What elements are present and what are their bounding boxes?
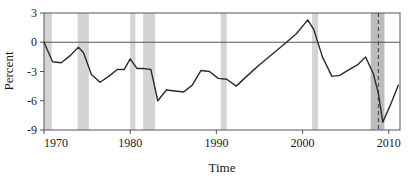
recession-band (78, 13, 89, 130)
x-tick-label: 2000 (291, 136, 315, 150)
x-axis-title-group: Time (209, 160, 236, 175)
y-tick-label: -3 (27, 65, 37, 79)
x-tick-label: 1970 (44, 136, 68, 150)
y-tick-label: 3 (31, 6, 37, 20)
recession-band (130, 13, 135, 130)
y-tick-label: 0 (31, 35, 37, 49)
y-axis-title-group: Percent (1, 51, 16, 90)
recession-band (221, 13, 227, 130)
recession-band (44, 13, 52, 130)
x-tick-label: 2010 (377, 136, 401, 150)
y-axis-ticks: 30-3-6-9 (27, 6, 44, 137)
x-axis-title: Time (209, 160, 236, 175)
x-tick-label: 1990 (204, 136, 228, 150)
recession-band (143, 13, 155, 130)
chart-figure: 30-3-6-9 19701980199020002010 Percent Ti… (0, 0, 414, 176)
line-chart: 30-3-6-9 19701980199020002010 Percent Ti… (0, 0, 414, 176)
x-tick-label: 1980 (118, 136, 142, 150)
recession-band (312, 13, 318, 130)
recession-bands-group (44, 13, 384, 130)
x-axis-ticks: 19701980199020002010 (44, 130, 401, 150)
y-tick-label: -9 (27, 123, 37, 137)
y-axis-title: Percent (1, 51, 16, 90)
y-tick-label: -6 (27, 94, 37, 108)
